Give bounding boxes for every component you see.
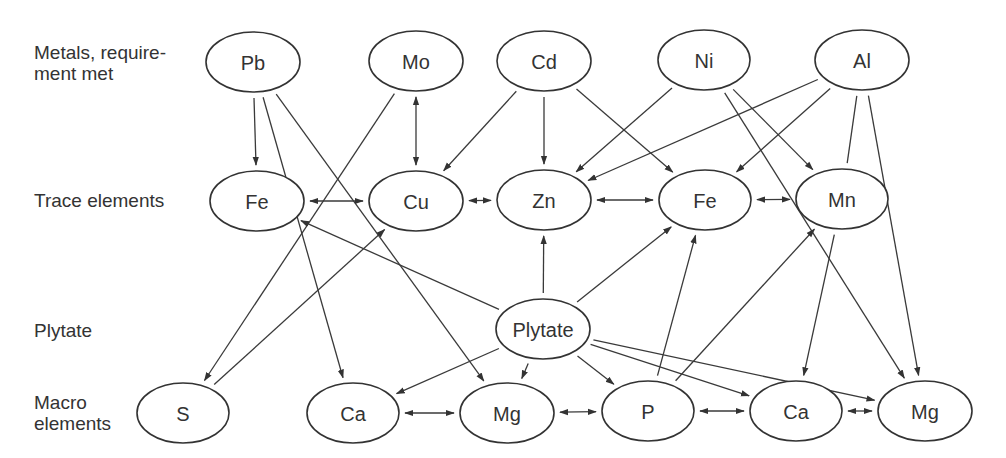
node-ca2: Ca xyxy=(750,381,842,441)
node-label: Cu xyxy=(403,191,429,213)
node-cu: Cu xyxy=(369,171,463,231)
edge-mo-to-s xyxy=(205,94,395,381)
edge-plytate-to-p xyxy=(578,356,614,384)
node-label: Ca xyxy=(783,401,809,423)
node-fe1: Fe xyxy=(210,171,304,231)
edge-al-to-fe2 xyxy=(737,88,831,171)
node-label: Mg xyxy=(911,401,939,423)
node-label: Fe xyxy=(693,190,716,212)
node-mo: Mo xyxy=(369,31,463,91)
node-ni: Ni xyxy=(658,30,750,90)
edges-layer xyxy=(205,80,919,414)
edge-al-to-mn xyxy=(847,96,857,163)
node-s: S xyxy=(137,383,229,443)
edge-mn-to-ca2 xyxy=(804,235,835,376)
node-ca1: Ca xyxy=(307,383,399,443)
edge-p-to-mn xyxy=(676,229,815,381)
edge-pb-to-fe1 xyxy=(254,98,256,165)
node-mn: Mn xyxy=(796,169,888,229)
node-label: Zn xyxy=(532,190,555,212)
edge-pb-to-ca1 xyxy=(263,97,343,377)
edge-plytate-to-fe1 xyxy=(301,221,499,310)
edge-plytate-to-mg1 xyxy=(522,364,528,379)
interaction-diagram: PbMoCdNiAlFeCuZnFeMnPlytateSCaMgPCaMg xyxy=(0,0,1006,458)
node-zn: Zn xyxy=(497,170,591,230)
node-label: S xyxy=(176,403,189,425)
node-label: Cd xyxy=(531,51,557,73)
edge-s-to-cu xyxy=(214,230,384,385)
edge-ni-to-mn xyxy=(733,89,813,169)
node-label: P xyxy=(641,401,654,423)
nodes-layer: PbMoCdNiAlFeCuZnFeMnPlytateSCaMgPCaMg xyxy=(137,30,972,443)
node-mg1: Mg xyxy=(460,383,554,443)
node-label: Plytate xyxy=(512,319,573,341)
node-pb: Pb xyxy=(206,32,300,92)
edge-mg1-to-p xyxy=(560,412,596,413)
node-plytate: Plytate xyxy=(496,299,590,359)
node-label: Ni xyxy=(695,50,714,72)
node-label: Al xyxy=(853,50,871,72)
edge-p-to-fe2 xyxy=(658,235,696,375)
edge-pb-to-mg1 xyxy=(276,94,484,381)
node-label: Mo xyxy=(402,51,430,73)
edge-ni-to-mg2 xyxy=(725,93,905,378)
node-label: Mg xyxy=(493,403,521,425)
node-label: Pb xyxy=(241,52,265,74)
node-label: Ca xyxy=(340,403,366,425)
node-p: P xyxy=(602,381,694,441)
node-fe2: Fe xyxy=(659,170,751,230)
edge-plytate-to-fe2 xyxy=(577,227,671,302)
node-mg2: Mg xyxy=(878,381,972,441)
node-al: Al xyxy=(815,30,909,90)
edge-cd-to-cu xyxy=(444,91,517,170)
node-label: Fe xyxy=(245,191,268,213)
node-label: Mn xyxy=(828,189,856,211)
node-cd: Cd xyxy=(497,31,591,91)
